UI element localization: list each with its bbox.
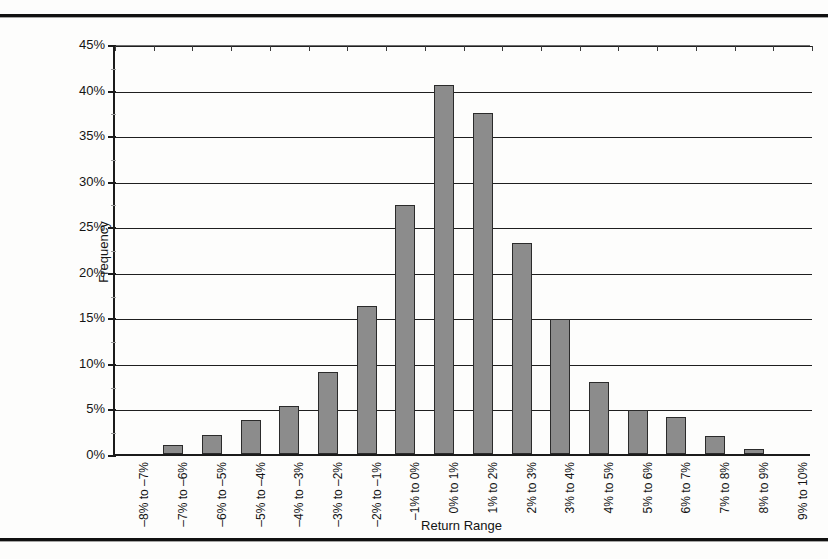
bar[interactable]	[512, 243, 532, 454]
y-axis-tick	[108, 455, 116, 457]
bar-slot[interactable]	[270, 44, 309, 454]
bar[interactable]	[473, 113, 493, 454]
bar-slot[interactable]	[425, 44, 464, 454]
x-axis-tick	[154, 46, 155, 51]
bar-slot[interactable]	[696, 44, 735, 454]
bar[interactable]	[434, 85, 454, 454]
bar[interactable]	[163, 445, 183, 454]
x-axis-category-label: 7% to 8%	[718, 462, 732, 513]
x-axis-title: Return Range	[113, 518, 810, 533]
x-axis-tick	[270, 46, 271, 51]
x-axis-tick	[386, 46, 387, 51]
x-axis-category-label: 6% to 7%	[679, 462, 693, 513]
bar-slot[interactable]	[580, 44, 619, 454]
y-axis-tick-label: 0%	[86, 447, 105, 462]
bar[interactable]	[318, 372, 338, 454]
bar[interactable]	[705, 436, 725, 454]
x-axis-tick	[309, 46, 310, 51]
x-axis-category-label: –6% to –5%	[215, 462, 229, 527]
x-axis-category-label: 9% to 10%	[796, 462, 810, 520]
bar-slot[interactable]	[773, 44, 812, 454]
y-axis-tick-label: 40%	[79, 83, 105, 98]
bar-slot[interactable]	[735, 44, 774, 454]
bar-slot[interactable]	[464, 44, 503, 454]
bar-slot[interactable]	[618, 44, 657, 454]
bar[interactable]	[666, 417, 686, 454]
x-axis-category-label: –7% to –6%	[176, 462, 190, 527]
x-axis-tick	[735, 46, 736, 51]
y-axis-tick-label: 10%	[79, 356, 105, 371]
bar-slot[interactable]	[347, 44, 386, 454]
bar[interactable]	[357, 306, 377, 455]
x-axis-tick	[657, 46, 658, 51]
x-axis-category-label: –8% to –7%	[137, 462, 151, 527]
bar-slot[interactable]	[309, 44, 348, 454]
bar-slot[interactable]	[386, 44, 425, 454]
bar[interactable]	[589, 382, 609, 454]
y-axis-tick-label: 5%	[86, 401, 105, 416]
y-axis-tick-label: 15%	[79, 310, 105, 325]
bar[interactable]	[550, 319, 570, 454]
x-axis-tick	[464, 46, 465, 51]
x-axis-category-label: –4% to –3%	[292, 462, 306, 527]
x-axis-tick	[580, 46, 581, 51]
bar[interactable]	[628, 410, 648, 454]
bar-slot[interactable]	[231, 44, 270, 454]
bar-series	[115, 44, 812, 454]
x-axis-tick	[618, 46, 619, 51]
x-axis-tick	[231, 46, 232, 51]
y-axis-tick-label: 35%	[79, 128, 105, 143]
bar-slot[interactable]	[657, 44, 696, 454]
bar[interactable]	[744, 449, 764, 454]
bar-slot[interactable]	[192, 44, 231, 454]
y-axis-tick-label: 45%	[79, 37, 105, 52]
x-axis-tick	[192, 46, 193, 51]
x-axis-category-label: 4% to 5%	[602, 462, 616, 513]
x-axis-category-label: 8% to 9%	[757, 462, 771, 513]
x-axis-category-label: –1% to 0%	[408, 462, 422, 520]
x-axis-tick	[425, 46, 426, 51]
x-axis-category-label: –5% to –4%	[254, 462, 268, 527]
x-axis-tick	[115, 46, 116, 51]
bar[interactable]	[241, 420, 261, 454]
x-axis-category-label: 2% to 3%	[525, 462, 539, 513]
x-axis-category-label: –2% to –1%	[370, 462, 384, 527]
bar[interactable]	[279, 406, 299, 454]
x-axis-category-label: 3% to 4%	[563, 462, 577, 513]
bar[interactable]	[202, 435, 222, 454]
chart-page: Frequency Distribution of Daily Returns …	[0, 0, 828, 559]
plot-area: 0%5%10%15%20%25%30%35%40%45% Frequency	[113, 46, 810, 456]
bar-slot[interactable]	[502, 44, 541, 454]
x-axis-category-label: 1% to 2%	[486, 462, 500, 513]
x-axis-category-label: 0% to 1%	[447, 462, 461, 513]
y-axis-title: Frequency	[96, 221, 111, 282]
x-axis-tick	[696, 46, 697, 51]
histogram-chart: 0%5%10%15%20%25%30%35%40%45% Frequency –…	[0, 0, 828, 559]
bar-slot[interactable]	[115, 44, 154, 454]
bar-slot[interactable]	[541, 44, 580, 454]
x-axis-tick	[502, 46, 503, 51]
bar[interactable]	[395, 205, 415, 454]
x-axis-tick	[812, 46, 813, 51]
x-axis-tick	[347, 46, 348, 51]
x-axis-tick	[773, 46, 774, 51]
x-axis-category-label: –3% to –2%	[331, 462, 345, 527]
x-axis-category-label: 5% to 6%	[641, 462, 655, 513]
y-axis-tick-label: 30%	[79, 174, 105, 189]
x-axis-tick	[541, 46, 542, 51]
bar-slot[interactable]	[154, 44, 193, 454]
